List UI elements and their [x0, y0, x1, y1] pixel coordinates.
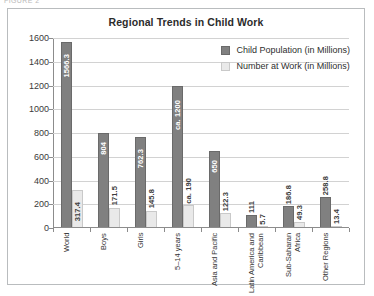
x-axis-label: Sub-Saharan Africa — [285, 233, 302, 295]
legend-item: Number at Work (in Millions) — [221, 61, 350, 71]
bar-value-label: 762.3 — [137, 149, 145, 168]
x-axis-labels: WorldBoysGirls5–14 yearsAsia and Pacific… — [53, 230, 349, 296]
legend-label: Child Population (in Millions) — [236, 45, 350, 55]
bar-value-label: 171.5 — [111, 186, 119, 205]
bar-value-label: 49.3 — [296, 205, 304, 220]
x-axis-tick-mark — [164, 228, 165, 232]
y-axis: 02004006008001000120014001600 — [8, 38, 49, 228]
bar-value-label: 650 — [211, 160, 219, 173]
legend-item: Child Population (in Millions) — [221, 45, 350, 55]
x-axis-tick-mark — [238, 228, 239, 232]
legend-label: Number at Work (in Millions) — [236, 61, 349, 71]
x-axis-tick-mark — [127, 228, 128, 232]
y-axis-tick-label: 1200 — [29, 81, 49, 91]
x-axis-label: Girls — [137, 233, 146, 295]
y-axis-tick-label: 1000 — [29, 104, 49, 114]
bar-value-label: 804 — [100, 142, 108, 155]
legend-swatch-icon — [221, 46, 230, 55]
x-axis-tick-mark — [90, 228, 91, 232]
bar-value-label: 145.8 — [148, 189, 156, 208]
bar-value-label: 122.3 — [222, 192, 230, 211]
bar — [220, 213, 231, 228]
x-axis-label: Other Regions — [322, 233, 331, 295]
bar-value-label: 258.8 — [322, 176, 330, 195]
y-axis-tick-label: 1600 — [29, 33, 49, 43]
figure-caption: FIGURE 2 — [4, 0, 39, 4]
y-axis-tick-label: 800 — [34, 128, 49, 138]
x-axis-tick-mark — [349, 228, 350, 232]
x-axis-label: Asia and Pacific — [211, 233, 220, 295]
x-axis-label: 5–14 years — [174, 233, 183, 295]
bar-value-label: ca. 1200 — [174, 100, 182, 130]
bar — [183, 205, 194, 228]
x-axis-tick-mark — [275, 228, 276, 232]
bar-value-label: 5.7 — [259, 214, 267, 225]
y-axis-tick-label: 200 — [34, 199, 49, 209]
bar-value-label: 13.4 — [333, 209, 341, 224]
bar — [109, 208, 120, 228]
y-axis-tick-label: 400 — [34, 176, 49, 186]
bar-value-label: 186.8 — [285, 185, 293, 204]
legend-swatch-icon — [221, 62, 230, 71]
bar-value-label: 111 — [248, 201, 256, 213]
y-axis-tick-label: 600 — [34, 152, 49, 162]
bar — [146, 211, 157, 228]
bar-value-label: ca. 190 — [185, 178, 193, 204]
x-axis-label: World — [63, 233, 72, 295]
bar — [283, 206, 294, 228]
chart-title: Regional Trends in Child Work — [8, 16, 364, 28]
x-axis-tick-mark — [201, 228, 202, 232]
bar-value-label: 1566.3 — [63, 54, 71, 78]
x-axis-tick-mark — [312, 228, 313, 232]
x-axis-tick-mark — [53, 228, 54, 232]
x-axis-label: Latin America and Caribbean — [248, 233, 265, 295]
bar — [320, 197, 331, 228]
chart-legend: Child Population (in Millions)Number at … — [221, 45, 350, 71]
bar-value-label: 317.4 — [74, 202, 82, 221]
y-axis-tick-label: 1400 — [29, 57, 49, 67]
chart-frame: Regional Trends in Child Work 0200400600… — [7, 8, 365, 285]
x-axis-label: Boys — [100, 233, 109, 295]
